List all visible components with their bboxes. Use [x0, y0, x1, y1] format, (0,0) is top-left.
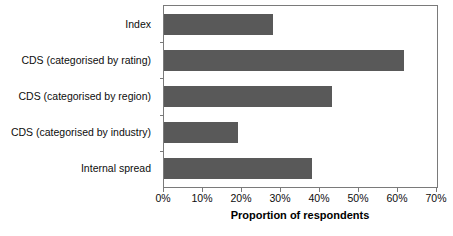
x-axis-tick-label: 20% — [230, 192, 251, 205]
x-axis-tick-label: 10% — [191, 192, 212, 205]
bars-layer — [164, 6, 437, 187]
category-label: CDS (categorised by region) — [0, 90, 151, 102]
category-label: CDS (categorised by industry) — [0, 126, 151, 138]
x-axis-tick-label: 50% — [347, 192, 368, 205]
bar-chart: IndexCDS (categorised by rating)CDS (cat… — [0, 0, 453, 236]
bar — [164, 86, 332, 107]
x-axis-tick-labels: 0%10%20%30%40%50%60%70% — [0, 192, 453, 206]
x-axis-tick-label: 70% — [425, 192, 446, 205]
x-axis-tick-label: 0% — [155, 192, 170, 205]
bar — [164, 122, 238, 143]
y-axis-tick — [160, 42, 164, 43]
x-axis-title: Proportion of respondents — [163, 208, 437, 222]
x-axis-tick-label: 60% — [386, 192, 407, 205]
category-label: Index — [0, 18, 151, 30]
bar — [164, 158, 312, 179]
x-axis-tick-label: 30% — [269, 192, 290, 205]
category-label: CDS (categorised by rating) — [0, 54, 151, 66]
x-axis-tick-label: 40% — [308, 192, 329, 205]
bar — [164, 50, 404, 71]
y-axis-tick — [160, 151, 164, 152]
y-axis-tick — [160, 78, 164, 79]
category-label: Internal spread — [0, 162, 151, 174]
bar — [164, 14, 273, 35]
y-axis-tick — [160, 115, 164, 116]
plot-area — [163, 5, 438, 188]
category-axis-labels: IndexCDS (categorised by rating)CDS (cat… — [0, 5, 157, 186]
